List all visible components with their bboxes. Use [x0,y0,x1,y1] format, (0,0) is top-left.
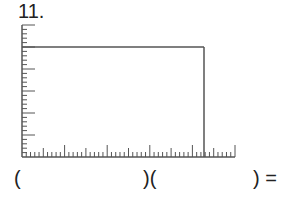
close-paren-equals: ) = [253,167,277,190]
open-paren-1: ( [14,167,21,190]
close-open-paren: )( [143,167,156,190]
